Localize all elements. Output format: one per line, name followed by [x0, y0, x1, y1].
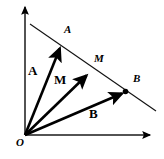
line-through-a-m-b	[30, 24, 156, 111]
point-label-b: B	[133, 73, 140, 84]
point-b-dot	[123, 89, 129, 95]
point-label-a: A	[64, 24, 71, 35]
origin-label: O	[16, 137, 24, 148]
vector-diagram-figure: A M B A M B O	[0, 0, 164, 159]
vector-label-a: A	[28, 64, 37, 77]
point-label-m: M	[94, 53, 104, 64]
vector-label-m: M	[54, 73, 66, 86]
vector-label-b: B	[89, 107, 98, 120]
